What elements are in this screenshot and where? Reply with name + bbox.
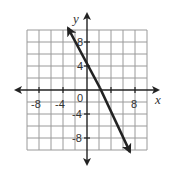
y-tick-label-neg4: -4 [72, 108, 82, 120]
y-tick-label-neg8: -8 [72, 132, 82, 144]
x-axis-label: x [154, 92, 161, 107]
y-axis-label: y [71, 11, 79, 26]
x-tick-label-8: 8 [131, 98, 137, 110]
x-tick-label-neg8: -8 [31, 98, 41, 110]
x-tick-label-neg4: -4 [55, 98, 65, 110]
coordinate-plane: y x 0 -8 -4 8 8 4 -4 -8 [0, 0, 169, 179]
y-tick-label-4: 4 [77, 60, 83, 72]
origin-label: 0 [77, 92, 83, 104]
